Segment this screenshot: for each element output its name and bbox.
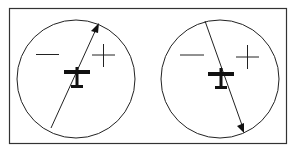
arrowhead-icon [91,23,99,33]
plus-sign-icon [92,44,115,67]
right-panel [161,20,279,138]
plus-sign-icon [236,45,259,69]
outer-frame [10,9,287,144]
wind-vector-line [51,27,97,128]
airplane-icon [208,68,234,89]
left-panel [17,20,135,138]
diagram-canvas [0,0,298,151]
airplane-icon [64,67,90,88]
arrowhead-icon [237,123,244,133]
